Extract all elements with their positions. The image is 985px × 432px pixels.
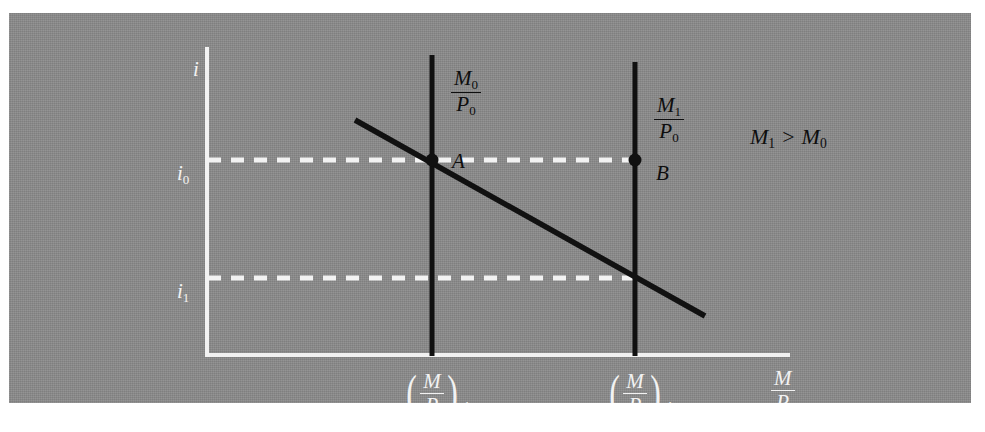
fraction-m-over-p: MP <box>771 368 795 403</box>
fraction-m0-over-p0: M0P0 <box>451 68 481 116</box>
y-tick-i1-sub: 1 <box>183 290 190 305</box>
x-tick-label-md0: (MP)d0 <box>403 370 472 403</box>
y-axis-label: i <box>193 59 199 80</box>
fraction-m1-over-p0: M1P0 <box>654 95 684 143</box>
ms0-numerator-sub: 0 <box>472 77 479 92</box>
money-demand-curve <box>355 120 705 316</box>
ms1-denominator-sub: 0 <box>672 129 679 144</box>
md0-subscript-base: d <box>462 400 468 403</box>
fraction-denominator: P0 <box>654 120 684 144</box>
fraction-m-over-p: MP <box>623 371 647 403</box>
parenthesized-fraction: (MP)d1 <box>606 370 675 403</box>
inequality-relation: > <box>775 124 801 149</box>
x-axis-label: MP <box>771 368 795 403</box>
point-label-a: A <box>452 151 465 172</box>
parenthesized-fraction: (MP)d0 <box>403 370 472 403</box>
fraction-m-over-p: MP <box>420 371 444 403</box>
ms0-denominator-sub: 0 <box>469 102 476 117</box>
fraction-numerator: M1 <box>654 95 684 120</box>
md1-numerator: M <box>623 371 647 394</box>
money-supply-label-ms1: M1P0 <box>654 95 684 143</box>
open-paren: ( <box>609 370 620 403</box>
x-axis-denominator: P <box>771 391 795 403</box>
inequality-annotation: M1>M0 <box>750 126 827 150</box>
inequality-m0: M <box>802 124 820 149</box>
close-paren: ) <box>650 370 661 403</box>
open-paren: ( <box>406 370 417 403</box>
ms0-denominator: P <box>456 92 469 116</box>
diagram-canvas <box>9 13 971 403</box>
equilibrium-point-a <box>426 154 439 167</box>
md1-subscript: d1 <box>665 401 675 403</box>
y-tick-i0-sub: 0 <box>183 172 190 187</box>
y-tick-label-i1: i1 <box>177 281 189 304</box>
point-label-b: B <box>656 163 669 184</box>
fraction-numerator: M0 <box>451 68 481 93</box>
close-paren: ) <box>447 370 458 403</box>
inequality-m0-sub: 0 <box>820 136 827 151</box>
x-tick-label-md1: (MP)d1 <box>606 370 675 403</box>
md1-subscript-base: d <box>665 400 671 403</box>
ms0-numerator: M <box>454 66 472 90</box>
md0-numerator: M <box>420 371 444 394</box>
y-tick-label-i0: i0 <box>177 163 189 186</box>
diagram-panel: i i0 i1 M0P0 M1P0 A B M1>M0 MP (MP)d0 (M… <box>9 13 971 403</box>
md0-denominator: P <box>420 394 444 403</box>
x-axis-numerator: M <box>771 368 795 391</box>
ms1-denominator: P <box>659 119 672 143</box>
figure-root: i i0 i1 M0P0 M1P0 A B M1>M0 MP (MP)d0 (M… <box>0 0 985 432</box>
money-supply-label-ms0: M0P0 <box>451 68 481 116</box>
inequality-m1: M <box>750 124 768 149</box>
fraction-denominator: P0 <box>451 93 481 117</box>
equilibrium-point-b <box>629 154 642 167</box>
md0-subscript: d0 <box>462 401 472 403</box>
md1-denominator: P <box>623 394 647 403</box>
ms1-numerator: M <box>657 93 675 117</box>
ms1-numerator-sub: 1 <box>675 104 682 119</box>
